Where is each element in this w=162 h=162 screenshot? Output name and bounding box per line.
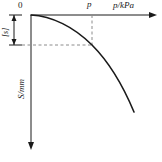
pressure-mark-label: p — [87, 0, 92, 9]
y-axis — [28, 15, 34, 150]
dimension-arrow-top — [12, 15, 17, 21]
allowable-settlement-dimension — [9, 15, 22, 45]
x-axis-arrowhead — [149, 12, 157, 18]
y-axis-label: S/mm — [17, 79, 26, 99]
ps-curve-figure: 0 p p/kPa S/mm [s] — [0, 0, 162, 162]
origin-label: 0 — [18, 1, 23, 10]
pressure-settlement-curve — [31, 15, 134, 112]
curve-path — [31, 15, 134, 112]
allowable-settlement-label: [s] — [2, 28, 10, 37]
x-axis-label: p/kPa — [113, 1, 134, 10]
y-axis-arrowhead — [28, 142, 34, 150]
dimension-arrow-bottom — [12, 39, 17, 45]
guide-lines — [22, 15, 92, 45]
x-axis — [31, 12, 157, 18]
